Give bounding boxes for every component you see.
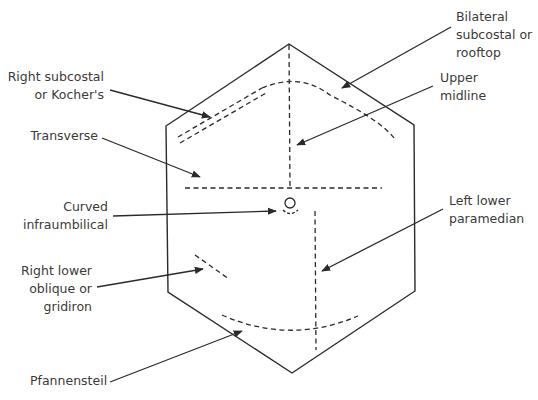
label-bilateral-subcostal: Bilateral subcostal or rooftop [456,8,532,62]
label-right-lower-oblique: Right lower oblique or gridiron [0,262,92,316]
curved-infraumbilical-incision [283,210,298,214]
arrow-pfannenstiel [110,331,242,382]
arrow-transverse [102,138,200,177]
arrow-bilateral-subcostal [342,27,451,88]
label-curved-infraumbilical: Curved infraumbilical [0,198,108,234]
label-pfannenstiel: Pfannensteil [30,372,107,390]
upper-midline-incision [289,45,290,186]
pfannenstiel-incision [222,315,358,330]
rooftop-incision [262,81,394,138]
label-right-subcostal: Right subcostal or Kocher's [0,68,104,104]
abdominal-incisions-diagram: Right subcostal or Kocher's Transverse C… [0,0,538,400]
label-left-lower-paramedian: Left lower paramedian [449,192,524,228]
right-subcostal-incision [178,88,262,137]
arrow-upper-midline [297,86,433,145]
arrow-curved-infraumbilical [113,211,276,216]
umbilicus [285,198,295,208]
arrow-right-subcostal [110,90,210,117]
arrow-right-lower-oblique [97,269,203,287]
left-lower-paramedian-incision [315,211,316,350]
arrow-left-lower-paramedian [322,209,443,271]
gridiron-incision [195,255,229,279]
label-transverse: Transverse [0,127,98,145]
label-upper-midline: Upper midline [440,69,486,105]
